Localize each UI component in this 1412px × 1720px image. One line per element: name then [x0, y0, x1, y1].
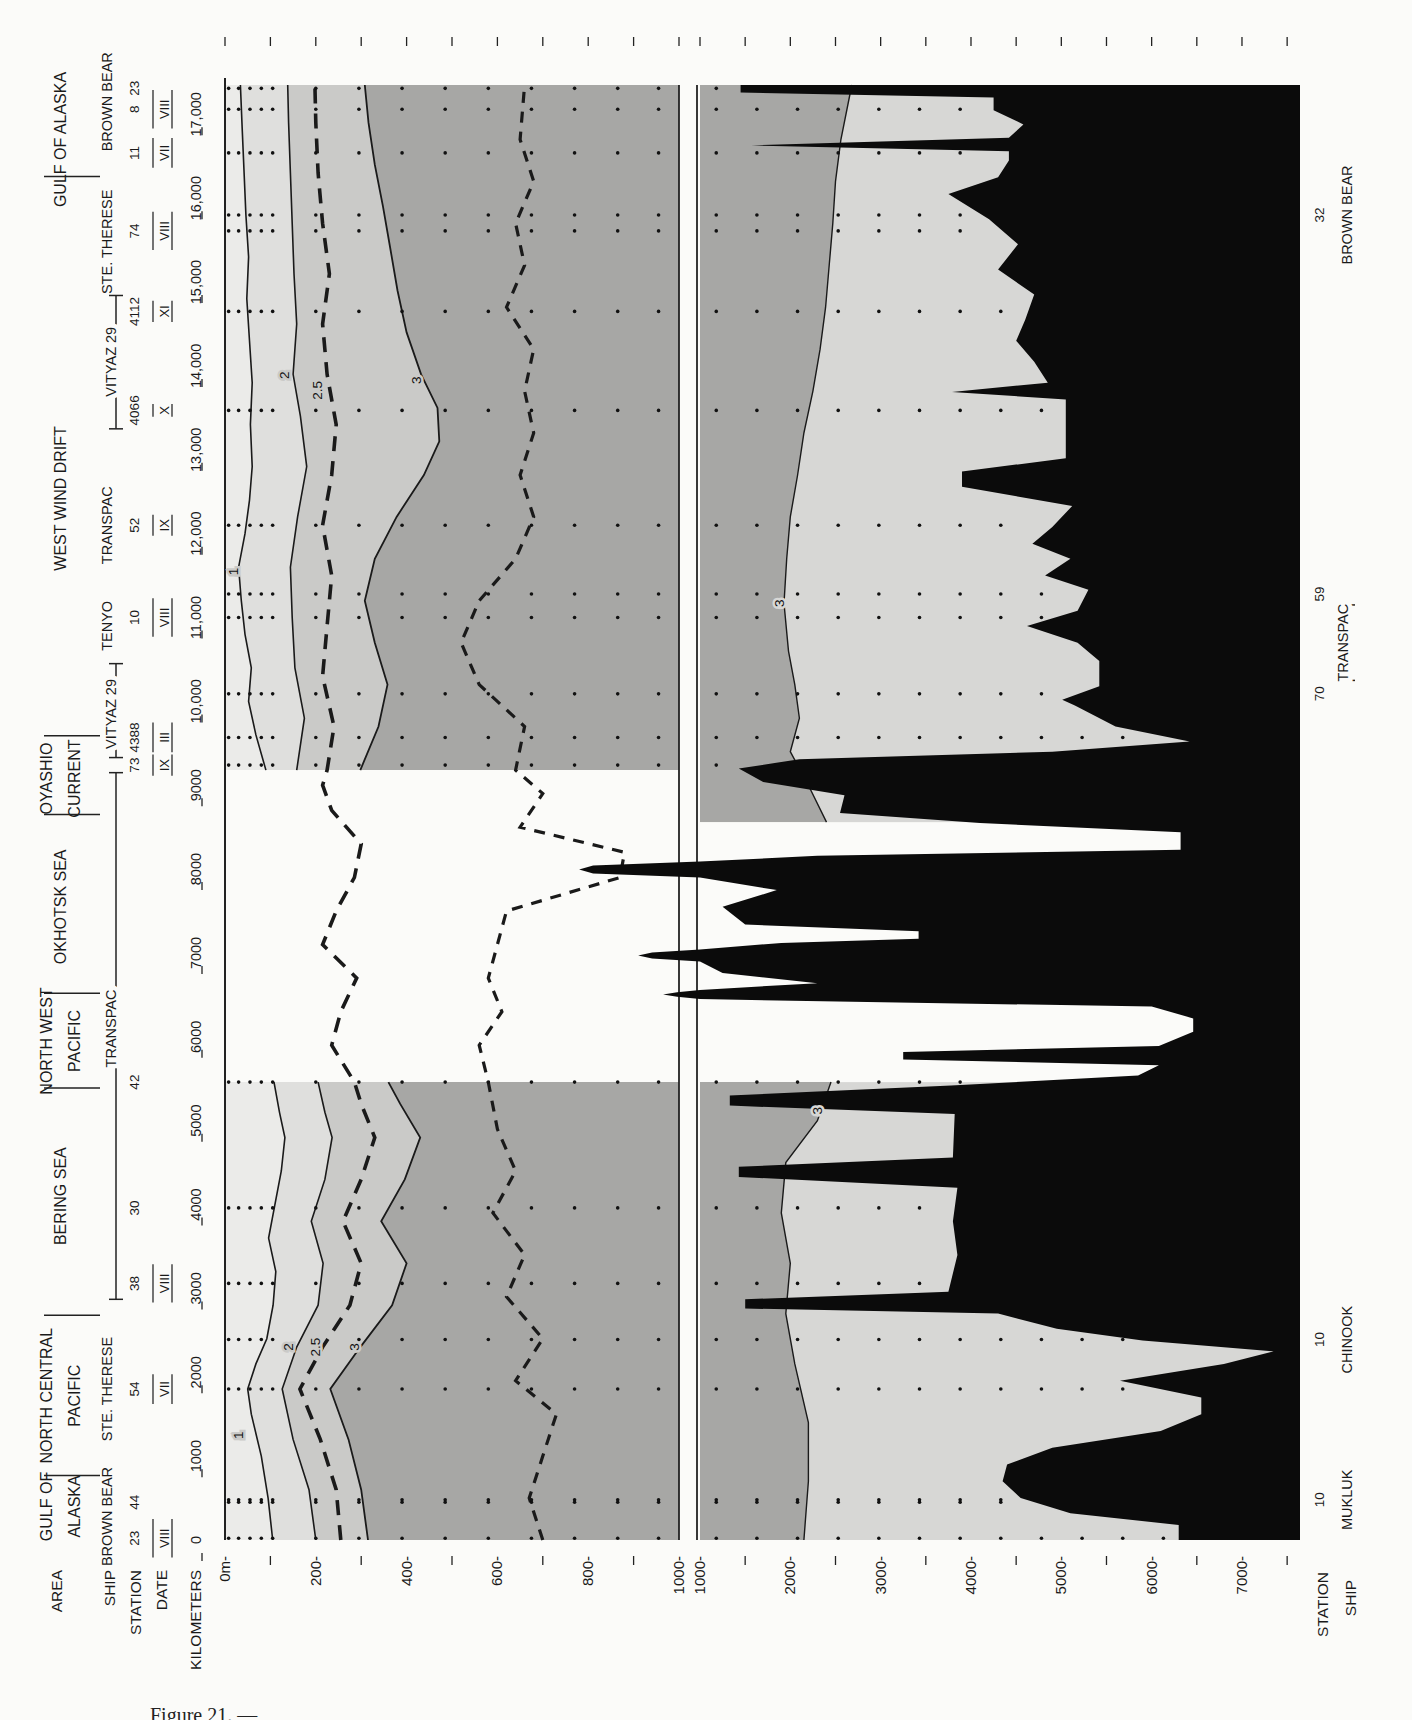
svg-text:VIII: VIII: [157, 1274, 172, 1294]
km-tick-label: 12,000: [188, 511, 204, 555]
svg-text:IX: IX: [157, 759, 172, 772]
ship-name: TRANSPAC: [103, 989, 119, 1067]
row-header-ship-right: SHIP: [1342, 1580, 1359, 1616]
station-number: 54: [127, 1381, 142, 1397]
contour-label: 2: [277, 371, 292, 379]
depth-tick-label: 800-: [579, 1556, 596, 1586]
station-date: VIII: [153, 90, 172, 128]
station-number-right: 70: [1312, 686, 1327, 701]
shallow-sill-wedge: [579, 862, 700, 878]
ship-name: TENYO: [99, 601, 115, 651]
km-tick-label: 13,000: [188, 428, 204, 472]
svg-text:VIII: VIII: [157, 1529, 172, 1549]
depth-tick-label: 1000-: [670, 1556, 687, 1594]
station-number: 4066: [127, 395, 142, 425]
station-date: XI: [153, 301, 172, 322]
station-number-right: 32: [1312, 207, 1327, 222]
area-name: GULF OF ALASKA: [52, 72, 69, 207]
ship-name-right: MUKLUK: [1339, 1469, 1355, 1530]
svg-text:III: III: [157, 732, 172, 743]
ship-name: BROWN BEAR: [99, 52, 115, 151]
station-number: 74: [127, 223, 142, 239]
ship-name-right: BROWN BEAR: [1339, 165, 1355, 264]
station-number: 10: [127, 610, 142, 625]
upper-panel-shading: [226, 85, 679, 1540]
svg-text:X: X: [157, 406, 172, 415]
section-plot: 122.53122.533301000200030004000500060007…: [0, 0, 1412, 1720]
km-tick-label: 5000: [188, 1105, 204, 1137]
row-header-station: STATION: [127, 1570, 144, 1635]
km-tick-label: 2000: [188, 1356, 204, 1388]
row-header-kilometers: KILOMETERS: [187, 1570, 204, 1670]
station-number: 38: [127, 1276, 142, 1291]
depth-tick-label: 7000-: [1233, 1556, 1250, 1594]
area-name: BERING SEA: [52, 1147, 69, 1245]
station-labels-left: 23VIII4454VII38VIII304273IX4388III10VIII…: [127, 81, 172, 1558]
station-number: 4388: [127, 722, 142, 752]
figure-caption: Figure 21. —: [150, 1704, 1350, 1720]
station-date: VII: [153, 138, 172, 168]
area-name: PACIFIC: [66, 1365, 83, 1427]
depth-tick-label: 400-: [398, 1556, 415, 1586]
contour-label: 1: [231, 1431, 246, 1439]
depth-tick-label: 4000-: [962, 1556, 979, 1594]
area-labels: GULF OFALASKANORTH CENTRALPACIFICBERING …: [38, 72, 100, 1542]
area-name: NORTH WEST: [38, 987, 55, 1094]
depth-axis-labels: 0m-200-400-600-800-1000-1000-2000-3000-4…: [216, 1556, 1250, 1594]
svg-text:VIII: VIII: [157, 221, 172, 241]
station-number: 8: [127, 106, 142, 114]
ship-name-right: TRANSPAC: [1335, 604, 1351, 682]
km-tick-label: 1000: [188, 1440, 204, 1472]
depth-tick-label: 3000-: [872, 1556, 889, 1594]
contour-label: 2: [281, 1343, 296, 1351]
km-tick-label: 0: [188, 1536, 204, 1544]
row-header-station-right: STATION: [1314, 1572, 1331, 1637]
km-tick-label: 16,000: [188, 176, 204, 220]
station-date: X: [153, 404, 172, 417]
kilometer-axis-labels: 010002000300040005000600070008000900010,…: [188, 92, 204, 1544]
station-date: IX: [153, 515, 172, 536]
km-tick-label: 10,000: [188, 679, 204, 723]
svg-text:VIII: VIII: [157, 100, 172, 120]
station-number: 23: [127, 1531, 142, 1546]
km-tick-label: 4000: [188, 1188, 204, 1220]
contour-label: 2.5: [310, 381, 325, 400]
station-number: 42: [127, 1075, 142, 1090]
section-plot-holder: 122.53122.533301000200030004000500060007…: [0, 0, 1412, 1720]
depth-tick-label: 6000-: [1143, 1556, 1160, 1594]
area-name: OYASHIO: [38, 743, 55, 815]
km-tick-label: 6000: [188, 1021, 204, 1053]
svg-text:VII: VII: [157, 145, 172, 161]
station-number: 52: [127, 518, 142, 533]
station-number: 11: [127, 146, 142, 160]
row-header-date: DATE: [153, 1570, 170, 1610]
svg-text:VII: VII: [157, 1381, 172, 1397]
area-name: OKHOTSK SEA: [52, 849, 69, 964]
depth-tick-label: 0m-: [216, 1556, 233, 1582]
contour-label: 3: [810, 1107, 825, 1115]
station-date: VIII: [153, 1519, 172, 1557]
km-tick-label: 17,000: [188, 92, 204, 136]
depth-tick-label: 5000-: [1052, 1556, 1069, 1594]
area-name: PACIFIC: [66, 1010, 83, 1072]
depth-tick-label: 200-: [307, 1556, 324, 1586]
area-name: WEST WIND DRIFT: [52, 426, 69, 571]
area-name: CURRENT: [66, 739, 83, 817]
depth-tick-label: 2000-: [781, 1556, 798, 1594]
area-name: ALASKA: [66, 1475, 83, 1538]
station-number-right: 10: [1312, 1332, 1327, 1347]
svg-text:VIII: VIII: [157, 608, 172, 628]
station-date: VII: [153, 1374, 172, 1404]
ship-name: STE. THERESE: [99, 189, 115, 294]
shallow-sill-wedge: [663, 990, 700, 999]
station-number: 30: [127, 1200, 142, 1215]
contour-label: 2.5: [308, 1338, 323, 1357]
km-tick-label: 11,000: [188, 596, 204, 639]
station-date: IX: [153, 755, 172, 776]
km-tick-label: 14,000: [188, 344, 204, 388]
ship-name: TRANSPAC: [99, 486, 115, 564]
svg-text:IX: IX: [157, 519, 172, 532]
ship-name: BROWN BEAR: [99, 1467, 115, 1566]
km-tick-label: 15,000: [188, 260, 204, 304]
row-headers-left: AREASHIPSTATIONDATEKILOMETERS: [48, 1569, 204, 1670]
